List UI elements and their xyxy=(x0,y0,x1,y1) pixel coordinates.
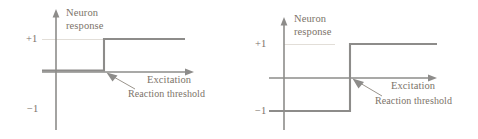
x-axis-label: Excitation xyxy=(147,74,191,85)
annotation-arrowhead-icon xyxy=(353,79,365,89)
y-tick-label-minus-one: −1 xyxy=(27,103,38,114)
y-tick-label-plus-one: +1 xyxy=(255,38,266,49)
chart-graphic-left xyxy=(0,0,239,139)
y-axis-label-line1: Neuron xyxy=(66,7,98,18)
annotation-arrow-left xyxy=(107,73,136,90)
chart-graphic-right xyxy=(239,0,478,139)
y-axis-label-line2: response xyxy=(66,20,104,31)
reaction-threshold-annotation: Reaction threshold xyxy=(128,89,205,100)
y-axis-label-line2: response xyxy=(294,26,332,37)
reaction-threshold-annotation: Reaction threshold xyxy=(375,96,452,107)
x-axis-label: Excitation xyxy=(391,80,435,91)
chart-panel-left: Neuron response +1 −1 Excitation Reactio… xyxy=(0,0,239,139)
y-tick-label-minus-one: −1 xyxy=(255,105,266,116)
y-tick-label-plus-one: +1 xyxy=(26,33,37,44)
y-axis-arrowhead-icon xyxy=(281,17,288,26)
annotation-arrowhead-icon xyxy=(107,73,118,82)
y-axis-label-line1: Neuron xyxy=(294,13,326,24)
y-axis-right xyxy=(281,17,288,130)
step-function-curve xyxy=(42,39,185,71)
figure-root: Neuron response +1 −1 Excitation Reactio… xyxy=(0,0,478,139)
chart-panel-right: Neuron response +1 −1 Excitation Reactio… xyxy=(239,0,478,139)
y-axis-arrowhead-icon xyxy=(53,9,60,18)
annotation-arrow-right xyxy=(353,79,383,97)
